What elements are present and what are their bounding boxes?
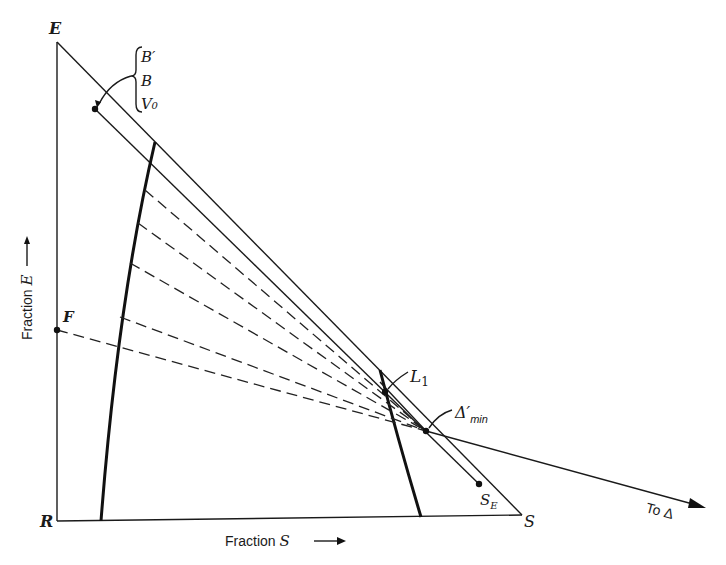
label-f: F (62, 308, 75, 326)
axis-label-fraction-e: Fraction E (18, 236, 36, 340)
line-to-delta (426, 431, 700, 506)
leader-l1 (388, 372, 408, 389)
hypotenuse-e-s (57, 42, 522, 515)
label-v0: V₀ (141, 95, 158, 113)
label-delta-min: Δ′min (454, 403, 488, 425)
point-delta-min (423, 428, 429, 434)
label-l1: L1 (409, 366, 429, 389)
label-s: S (524, 512, 535, 531)
label-se: SE (480, 491, 498, 511)
arrowhead-icon (688, 498, 706, 508)
axis-label-fraction-s: Fraction S (225, 532, 346, 550)
leader-delta (429, 410, 452, 428)
point-l1 (382, 389, 388, 395)
label-b-prime: B′ (140, 48, 156, 66)
extract-boundary-curve (101, 142, 155, 521)
point-se (476, 481, 482, 487)
svg-text:Fraction E: Fraction E (18, 275, 36, 340)
tie-line (138, 223, 426, 431)
ternary-diagram: E R S F B′ B V₀ L1 Δ′min SE To Δ Fractio… (0, 0, 726, 565)
axis-r-s (57, 515, 522, 521)
label-r: R (39, 512, 53, 531)
svg-text:Fraction S: Fraction S (225, 532, 290, 550)
label-e: E (48, 19, 62, 38)
tie-line (57, 330, 426, 431)
label-to-delta: To Δ (644, 499, 675, 522)
line-b-delta (380, 382, 426, 431)
label-b: B (140, 72, 152, 90)
point-f (54, 327, 60, 333)
